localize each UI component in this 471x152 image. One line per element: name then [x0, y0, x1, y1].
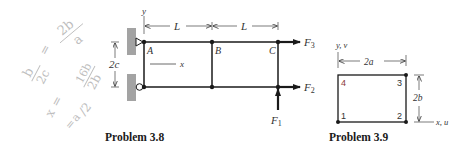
node-bottom-left	[142, 85, 146, 89]
node-label-b: B	[215, 45, 221, 56]
dim-L-right: L	[240, 20, 247, 32]
corner-label-2: 2	[397, 111, 402, 121]
corner-label-3: 3	[397, 78, 402, 88]
node-b	[210, 40, 214, 44]
svg-text:2c: 2c	[34, 67, 53, 86]
element-rectangle	[338, 75, 406, 122]
axis-y-label: y	[141, 6, 146, 16]
problem-3-8-diagram: 2c y L L A B C x F3	[105, 6, 315, 143]
force-f1-label: F1	[270, 114, 282, 128]
svg-text:x: x	[42, 107, 58, 120]
corner-label-1: 1	[341, 111, 346, 121]
svg-text:a: a	[70, 31, 86, 48]
force-f2-label: F2	[303, 81, 315, 95]
wall-support-top	[127, 28, 136, 55]
dim-2b-label: 2b	[413, 93, 423, 103]
svg-text:/2: /2	[76, 100, 94, 118]
problem-3-9-diagram: y, v 2a 4 3 1 2 2b x, u Problem 3.9	[329, 40, 448, 143]
dim-L-left: L	[173, 20, 180, 32]
axis-xu-label: x, u	[435, 117, 448, 127]
svg-text:=: =	[36, 42, 53, 57]
caption-problem-3-8: Problem 3.8	[105, 131, 164, 143]
dim-2c-label: 2c	[109, 58, 120, 70]
axis-x-label: x	[179, 59, 184, 69]
node-label-a: A	[146, 45, 154, 56]
figure-canvas: b 2c = 2b a x = 16b 2b = a /2	[0, 0, 471, 152]
svg-text:=: =	[48, 93, 65, 108]
node-a	[142, 40, 146, 44]
node-bottom-mid	[210, 85, 214, 89]
force-f3-label: F3	[303, 36, 315, 50]
dim-2a-label: 2a	[364, 57, 374, 67]
handwritten-notes: b 2c = 2b a x = 16b 2b = a /2	[18, 11, 107, 133]
node-label-c: C	[269, 45, 276, 56]
corner-label-4: 4	[341, 78, 346, 88]
caption-problem-3-9: Problem 3.9	[329, 131, 388, 143]
wall-support-bottom	[127, 74, 136, 101]
axis-yv-label: y, v	[335, 40, 348, 50]
